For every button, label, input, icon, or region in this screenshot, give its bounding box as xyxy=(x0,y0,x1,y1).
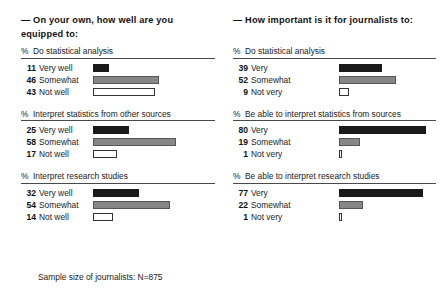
bar-row: 58 Somewhat xyxy=(21,136,215,148)
bar-track xyxy=(93,199,215,211)
bar-value: 11 xyxy=(21,63,39,73)
bar-category: Very well xyxy=(39,63,93,73)
sample-size-note: Sample size of journalists: N=875 xyxy=(38,272,163,282)
bar-fill xyxy=(93,88,155,96)
panel-equipped: — On your own, how well are you equipped… xyxy=(0,0,223,223)
bar-row: 39 Very xyxy=(233,62,436,74)
bar-value: 9 xyxy=(233,87,251,97)
panel-title-importance: — How important is it for journalists to… xyxy=(233,14,436,43)
bar-fill xyxy=(339,213,342,221)
group-equipped-statistical-analysis: % Do statistical analysis 11 Very well 4… xyxy=(21,46,215,98)
bar-category: Not well xyxy=(39,212,93,222)
group-label: Interpret statistics from other sources xyxy=(33,109,171,119)
bar-category: Not very xyxy=(251,87,339,97)
bar-value: 77 xyxy=(233,188,251,198)
bar-category: Very xyxy=(251,188,339,198)
panel-title-equipped: — On your own, how well are you equipped… xyxy=(21,14,215,43)
group-header: % Interpret statistics from other source… xyxy=(21,109,215,122)
group-label: Be able to interpret research studies xyxy=(245,171,380,181)
bar-row: 11 Very well xyxy=(21,62,215,74)
bar-value: 32 xyxy=(21,188,39,198)
bar-fill xyxy=(93,213,113,221)
bar-row: 77 Very xyxy=(233,187,436,199)
bar-value: 80 xyxy=(233,125,251,135)
bar-category: Not well xyxy=(39,87,93,97)
bar-track xyxy=(93,62,215,74)
bar-category: Somewhat xyxy=(251,200,339,210)
bar-category: Somewhat xyxy=(39,200,93,210)
bar-track xyxy=(339,62,436,74)
bar-value: 54 xyxy=(21,200,39,210)
bar-fill xyxy=(93,126,129,134)
bar-fill xyxy=(93,189,139,197)
bar-fill xyxy=(339,201,363,209)
percent-sign: % xyxy=(233,171,245,181)
bar-value: 19 xyxy=(233,137,251,147)
bar-row: 1 Not very xyxy=(233,148,436,160)
bar-row: 32 Very well xyxy=(21,187,215,199)
group-header: % Do statistical analysis xyxy=(233,46,436,59)
bar-fill xyxy=(339,189,423,197)
bar-row: 17 Not well xyxy=(21,148,215,160)
bar-track xyxy=(339,124,436,136)
panel-importance: — How important is it for journalists to… xyxy=(223,0,446,223)
bar-track xyxy=(93,74,215,86)
group-label: Be able to interpret statistics from sou… xyxy=(245,109,401,119)
bar-fill xyxy=(339,150,342,158)
bar-row: 43 Not well xyxy=(21,86,215,98)
bar-row: 46 Somewhat xyxy=(21,74,215,86)
percent-sign: % xyxy=(21,171,33,181)
group-header: % Do statistical analysis xyxy=(21,46,215,59)
group-importance-statistical-analysis: % Do statistical analysis 39 Very 52 Som… xyxy=(233,46,436,98)
group-label: Interpret research studies xyxy=(33,171,128,181)
percent-sign: % xyxy=(233,46,245,56)
bar-track xyxy=(339,211,436,223)
bar-track xyxy=(339,199,436,211)
bar-category: Not well xyxy=(39,149,93,159)
percent-sign: % xyxy=(21,46,33,56)
group-equipped-interpret-statistics: % Interpret statistics from other source… xyxy=(21,109,215,161)
chart-figure: — On your own, how well are you equipped… xyxy=(0,0,447,295)
bar-track xyxy=(93,136,215,148)
group-importance-interpret-statistics: % Be able to interpret statistics from s… xyxy=(233,109,436,161)
bar-value: 17 xyxy=(21,149,39,159)
bar-fill xyxy=(93,64,109,72)
group-header: % Be able to interpret research studies xyxy=(233,171,436,184)
bar-fill xyxy=(339,138,360,146)
bar-fill xyxy=(339,76,396,84)
bar-track xyxy=(93,187,215,199)
bar-value: 1 xyxy=(233,212,251,222)
bar-fill xyxy=(339,64,382,72)
bar-track xyxy=(93,124,215,136)
bar-row: 14 Not well xyxy=(21,211,215,223)
bar-row: 1 Not very xyxy=(233,211,436,223)
bar-row: 22 Somewhat xyxy=(233,199,436,211)
group-label: Do statistical analysis xyxy=(33,46,113,56)
bar-category: Very well xyxy=(39,188,93,198)
bar-category: Very xyxy=(251,125,339,135)
bar-value: 43 xyxy=(21,87,39,97)
bar-row: 52 Somewhat xyxy=(233,74,436,86)
bar-category: Not very xyxy=(251,212,339,222)
group-label: Do statistical analysis xyxy=(245,46,325,56)
bar-track xyxy=(339,74,436,86)
percent-sign: % xyxy=(233,109,245,119)
bar-value: 39 xyxy=(233,63,251,73)
bar-track xyxy=(339,136,436,148)
group-importance-research-studies: % Be able to interpret research studies … xyxy=(233,171,436,223)
bar-category: Somewhat xyxy=(39,137,93,147)
bar-track xyxy=(339,187,436,199)
bar-category: Very xyxy=(251,63,339,73)
bar-value: 22 xyxy=(233,200,251,210)
bar-fill xyxy=(339,88,349,96)
bar-value: 1 xyxy=(233,149,251,159)
bar-track xyxy=(93,211,215,223)
bar-value: 46 xyxy=(21,75,39,85)
bar-row: 19 Somewhat xyxy=(233,136,436,148)
bar-track xyxy=(339,148,436,160)
bar-fill xyxy=(93,201,170,209)
bar-value: 25 xyxy=(21,125,39,135)
bar-track xyxy=(93,148,215,160)
bar-fill xyxy=(93,138,176,146)
group-equipped-research-studies: % Interpret research studies 32 Very wel… xyxy=(21,171,215,223)
